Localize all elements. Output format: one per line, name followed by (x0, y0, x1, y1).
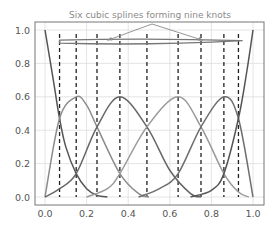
x-tick-label: 0.2 (79, 208, 94, 219)
annotation-bar (60, 39, 243, 44)
y-tick-label: 1.0 (15, 25, 30, 36)
x-tick-label: 1.0 (245, 208, 260, 219)
x-tick-label: 0.0 (37, 208, 52, 219)
y-tick-label: 0.6 (15, 91, 30, 102)
x-tick-label: 0.6 (162, 208, 177, 219)
y-axis-ticks: 0.00.20.40.60.81.0 (15, 25, 30, 203)
spline-4-curve (139, 97, 253, 197)
x-axis-ticks: 0.00.20.40.60.81.0 (37, 208, 260, 219)
annotation-arrow (107, 24, 152, 40)
y-tick-label: 0.4 (15, 125, 30, 136)
annotation (60, 24, 243, 44)
chart-title: Six cubic splines forming nine knots (69, 10, 231, 20)
y-tick-label: 0.0 (15, 192, 30, 203)
y-tick-label: 0.2 (15, 158, 30, 169)
y-tick-label: 0.8 (15, 58, 30, 69)
x-tick-label: 0.8 (204, 208, 219, 219)
axes-frame (35, 22, 264, 205)
grid-lines (35, 22, 264, 205)
spline-right-edge-curve (191, 30, 253, 197)
x-tick-label: 0.4 (121, 208, 136, 219)
spline-chart: 0.00.20.40.60.81.0 0.00.20.40.60.81.0 Si… (0, 0, 277, 230)
